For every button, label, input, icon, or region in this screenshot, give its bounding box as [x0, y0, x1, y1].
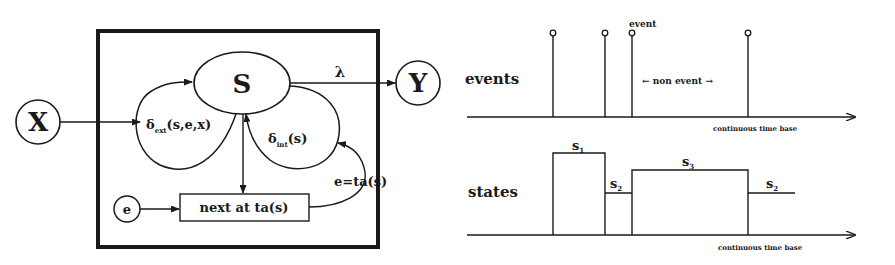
- state-label-s2: s2: [610, 176, 622, 193]
- elapsed-clock-label: e: [123, 202, 131, 217]
- event-annotation: event: [629, 19, 657, 29]
- atomic-model: S X Y λ δext(s,e,x) δint(s) next at ta(s…: [16, 31, 440, 247]
- timeout-condition-label: e=ta(s): [334, 174, 387, 189]
- states-axis-label: continuous time base: [718, 243, 803, 252]
- state-label-s3: s3: [682, 154, 694, 171]
- time-advance-label: next at ta(s): [199, 200, 288, 215]
- events-row-label: events: [465, 70, 519, 88]
- timeline-diagram: events continuous time base event ← non …: [465, 19, 855, 252]
- output-node-label: Y: [408, 68, 428, 98]
- internal-transition-label: δint(s): [268, 131, 307, 149]
- output-function-label: λ: [335, 63, 346, 81]
- states-row-label: states: [468, 183, 518, 201]
- non-event-annotation: ← non event →: [642, 76, 713, 86]
- external-transition-label: δext(s,e,x): [146, 117, 211, 135]
- state-label-s1: s1: [572, 138, 584, 155]
- devs-diagram: S X Y λ δext(s,e,x) δint(s) next at ta(s…: [0, 0, 895, 265]
- internal-transition-loop: [246, 86, 339, 169]
- event-stems: [550, 30, 751, 117]
- state-trajectory: [553, 153, 795, 235]
- state-label-s2-again: s2: [766, 176, 778, 193]
- events-axis-label: continuous time base: [713, 124, 798, 133]
- state-node-label: S: [233, 69, 252, 99]
- input-node-label: X: [28, 107, 49, 137]
